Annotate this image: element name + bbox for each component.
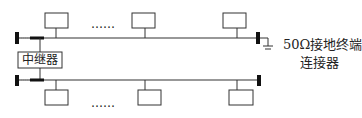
station-box: [229, 90, 253, 105]
terminator-label-line1: 50Ω接地终端: [283, 38, 362, 51]
ellipsis-top: ……: [91, 18, 115, 30]
ground-icon: [260, 38, 273, 49]
lower-segment: [15, 75, 261, 105]
lower-right-terminator: [257, 75, 261, 86]
upper-right-terminator: [256, 32, 260, 44]
terminator-label-line2: 连接器: [300, 56, 339, 69]
station-box: [138, 90, 161, 105]
repeater-label: 中继器: [18, 52, 62, 68]
station-box: [45, 90, 68, 105]
station-box: [223, 13, 246, 28]
lower-transceiver-tap: [30, 79, 44, 82]
upper-left-terminator: [15, 32, 19, 44]
upper-segment: [15, 13, 273, 49]
station-box: [45, 13, 68, 28]
upper-transceiver-tap: [30, 37, 44, 40]
station-box: [132, 13, 155, 28]
lower-left-terminator: [15, 75, 19, 86]
ellipsis-bottom: ……: [91, 97, 115, 109]
